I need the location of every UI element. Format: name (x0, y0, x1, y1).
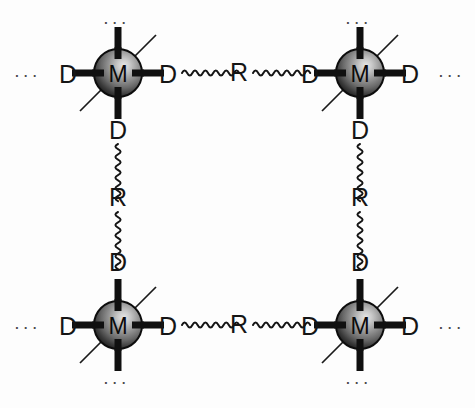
donor-label-br-right: D (401, 312, 419, 340)
ellipsis-right-bottom-row: ··· (438, 316, 464, 337)
donor-label-tl-down: D (109, 116, 127, 144)
metal-label-bottom-right: M (350, 313, 369, 339)
donor-label-tr-right: D (401, 60, 419, 88)
metal-label-bottom-left: M (108, 313, 127, 339)
donor-label-bl-right: D (159, 312, 177, 340)
ellipsis-above-top-left: ··· (103, 11, 129, 32)
linker-label-left: R (109, 183, 127, 211)
donor-label-tl-left: D (59, 60, 77, 88)
donor-label-bl-left: D (59, 312, 77, 340)
donor-label-tr-down: D (351, 116, 369, 144)
metal-label-top-left: M (108, 61, 127, 87)
metal-label-top-right: M (350, 61, 369, 87)
network-diagram-svg: M D D D ··· ··· M D D D ··· ··· M D D D … (0, 0, 475, 408)
diagram-canvas: M D D D ··· ··· M D D D ··· ··· M D D D … (0, 0, 475, 408)
donor-label-tl-right: D (159, 60, 177, 88)
ellipsis-left-bottom-row: ··· (14, 316, 40, 337)
donor-label-br-up: D (351, 248, 369, 276)
linker-label-right: R (351, 183, 369, 211)
ellipsis-above-top-right: ··· (345, 11, 371, 32)
ellipsis-left-top-row: ··· (14, 64, 40, 85)
ellipsis-below-bottom-left: ··· (103, 371, 129, 392)
linker-label-top: R (230, 58, 248, 86)
ellipsis-right-top-row: ··· (438, 64, 464, 85)
ellipsis-below-bottom-right: ··· (345, 371, 371, 392)
linker-label-bottom: R (230, 310, 248, 338)
donor-label-bl-up: D (109, 248, 127, 276)
